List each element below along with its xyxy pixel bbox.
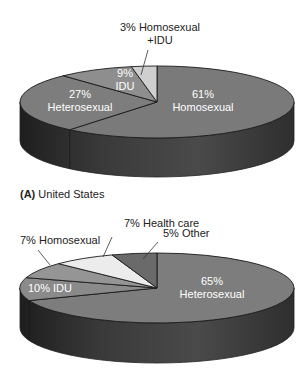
slice-label: 10% IDU bbox=[28, 282, 72, 294]
slice-label: 5% Other bbox=[163, 227, 210, 239]
pie-chart-bottom: 65%Heterosexual10% IDU7% Homosexual7% He… bbox=[0, 0, 308, 377]
slice-label: 7% Homosexual bbox=[20, 234, 100, 246]
pie-chart-figure: 61%Homosexual27%Heterosexual9%IDU3% Homo… bbox=[0, 0, 308, 377]
